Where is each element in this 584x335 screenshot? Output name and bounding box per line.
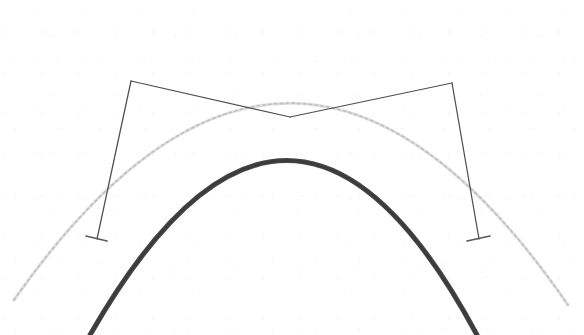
- left-upper-chord-line: [131, 81, 290, 117]
- outer-arc-group: [14, 103, 568, 305]
- technical-drawing-svg: [0, 0, 584, 335]
- right-upper-chord-line: [290, 83, 452, 117]
- inner-arc-group: [90, 161, 477, 335]
- figure-canvas: [0, 0, 584, 335]
- left-steep-line: [97, 81, 131, 239]
- tick-marks-group: [86, 236, 490, 241]
- outer-arc-faint: [14, 103, 568, 305]
- left-tick-mark: [86, 236, 107, 241]
- right-steep-line: [452, 83, 479, 239]
